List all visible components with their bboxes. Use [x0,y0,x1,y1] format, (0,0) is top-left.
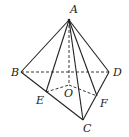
label-O: O [64,87,73,100]
edge-CD [83,72,109,120]
edge-AE [46,20,69,92]
solid-edges [21,20,109,120]
edge-AB [21,20,69,72]
label-F: F [99,97,108,110]
edge-AF [69,20,97,96]
label-B: B [10,66,19,79]
edge-BC [21,72,83,120]
label-A: A [69,3,78,16]
hidden-edge-OF [69,85,97,96]
label-D: D [112,66,122,79]
label-C: C [83,122,92,135]
pyramid-diagram: A B C D E F O [0,0,129,137]
apex-point-A [68,19,71,22]
label-E: E [35,94,44,107]
